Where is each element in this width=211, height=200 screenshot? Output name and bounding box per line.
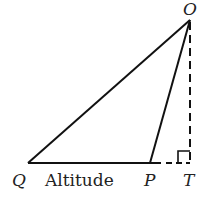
segment-QO xyxy=(28,20,190,163)
base-label: Altitude xyxy=(44,170,114,190)
label-P: P xyxy=(143,170,156,190)
right-angle-marker xyxy=(178,151,190,163)
triangle-diagram: O Q Altitude P T xyxy=(0,0,211,200)
label-O: O xyxy=(183,0,197,19)
label-Q: Q xyxy=(12,170,26,190)
label-T: T xyxy=(183,170,196,190)
segment-PO xyxy=(150,20,190,163)
